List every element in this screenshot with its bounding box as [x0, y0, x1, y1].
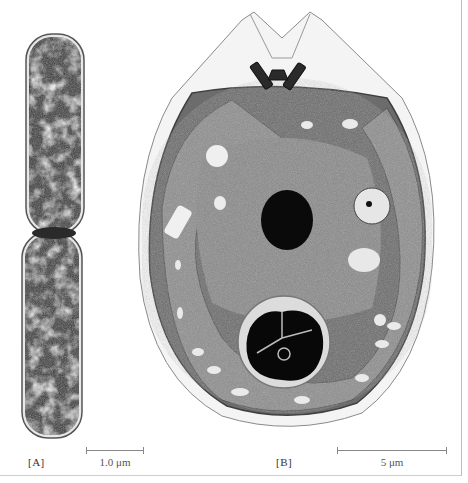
panel-b-scale-bar: [337, 447, 447, 455]
algal-cell-image: [132, 8, 442, 433]
panel-b-micrograph: [132, 8, 442, 433]
panel-b-label: [B]: [276, 456, 292, 468]
bacterium-image: [18, 32, 96, 440]
panel-a-scale-bar: [86, 447, 144, 455]
panel-a-micrograph: [18, 32, 96, 440]
panel-a-label: [A]: [28, 456, 45, 468]
panel-a-scale-text: 1.0 μm: [86, 456, 144, 468]
panel-b-scale-text: 5 μm: [337, 456, 447, 468]
